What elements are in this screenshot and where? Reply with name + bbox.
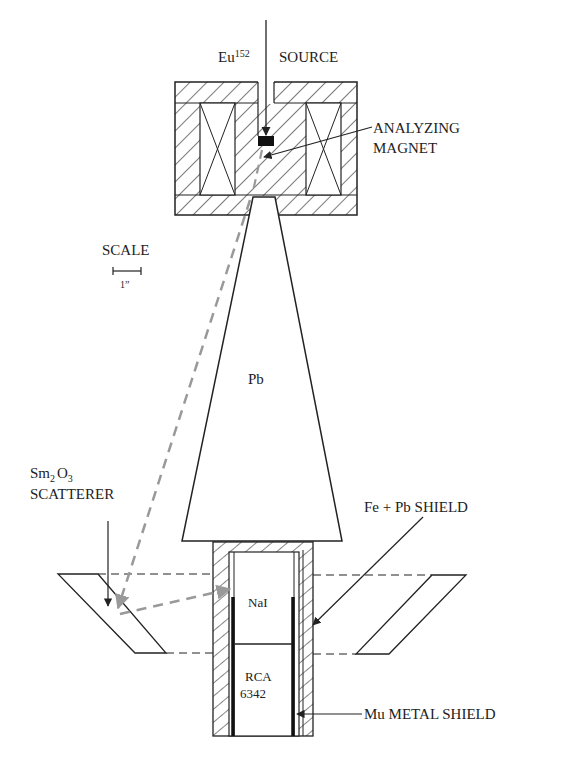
formula-o: O <box>57 465 68 481</box>
scale-title: SCALE <box>102 243 150 258</box>
formula-sm: Sm <box>30 465 50 481</box>
diagram-drawing <box>0 0 580 772</box>
mu-metal-shield-label: Mu METAL SHIELD <box>364 707 496 722</box>
scale-bar <box>113 267 141 275</box>
magnet-label-line2: MAGNET <box>373 141 437 156</box>
formula-sub2: 2 <box>50 473 55 484</box>
apparatus-diagram: Eu152 SOURCE ANALYZING MAGNET SCALE 1” P… <box>0 0 580 772</box>
detector-assembly <box>213 542 313 736</box>
pmt-label-line1: RCA <box>245 670 272 683</box>
formula-sub3: 3 <box>68 473 73 484</box>
scale-unit: 1” <box>120 280 129 290</box>
source-isotope: 152 <box>235 48 250 59</box>
pmt-label-line2: 6342 <box>240 687 266 700</box>
source-block <box>258 136 274 146</box>
source-word: SOURCE <box>279 50 338 65</box>
scatterer-word: SCATTERER <box>30 487 114 502</box>
scatterer-left <box>58 574 166 653</box>
nai-crystal-label: NaI <box>248 596 268 609</box>
source-element: Eu <box>218 49 235 65</box>
pb-cone <box>182 197 342 541</box>
fe-pb-shield-label: Fe + Pb SHIELD <box>364 500 468 515</box>
cone-material-label: Pb <box>248 372 264 387</box>
scatterer-right <box>356 575 466 654</box>
magnet-label-line1: ANALYZING <box>373 121 460 136</box>
scatterer-formula: Sm2O3 <box>30 466 73 481</box>
source-label: Eu152 <box>218 50 250 65</box>
